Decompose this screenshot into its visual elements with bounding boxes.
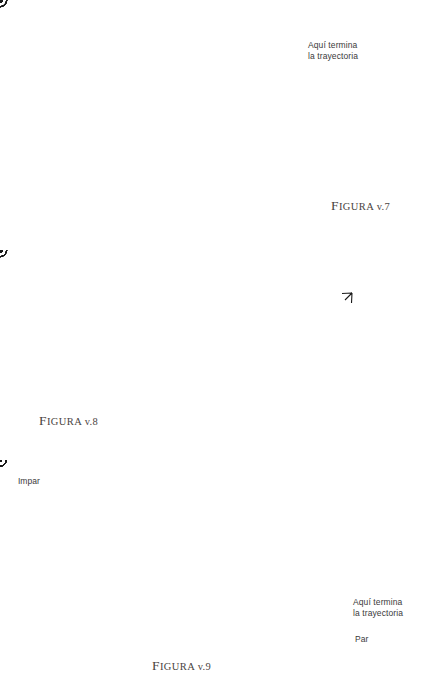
caption-number: v.8	[85, 416, 99, 427]
grid-dot	[0, 0, 3, 3]
figure-v9-caption: FIGURA v.9	[152, 658, 211, 674]
caption-word: IGURA	[339, 201, 374, 212]
caption-word: IGURA	[47, 416, 82, 427]
caption-initial: F	[152, 658, 160, 673]
caption-number: v.7	[377, 201, 391, 212]
figure-v7-annotation: Aquí termina la trayectoria	[308, 40, 358, 62]
caption-initial: F	[39, 413, 47, 428]
figure-v8-caption: FIGURA v.8	[39, 413, 98, 429]
caption-initial: F	[331, 198, 339, 213]
caption-number: v.9	[198, 661, 212, 672]
grid-dot	[0, 250, 3, 253]
figure-v9-diagram	[0, 460, 433, 693]
direction-arrow-icon	[342, 293, 352, 303]
figure-v9-odd-label: Impar	[18, 476, 40, 486]
figure-v9	[0, 460, 433, 693]
figure-v9-annotation: Aquí termina la trayectoria	[353, 597, 403, 619]
figure-v7-caption: FIGURA v.7	[331, 198, 390, 214]
grid-dot	[0, 460, 2, 462]
figure-v9-even-label: Par	[355, 634, 368, 644]
caption-word: IGURA	[160, 661, 195, 672]
